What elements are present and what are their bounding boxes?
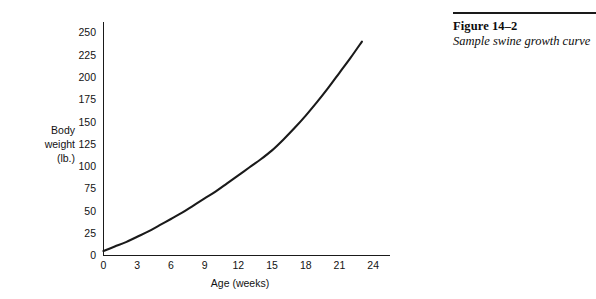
x-tick-label: 15 — [266, 259, 278, 271]
growth-curve-line — [104, 42, 362, 251]
y-tick-label: 75 — [84, 182, 96, 194]
growth-curve-chart: 0255075100125150175200225250 03691215182… — [0, 0, 440, 299]
x-tick-label: 3 — [134, 259, 140, 271]
x-tick-label: 21 — [334, 259, 346, 271]
y-tick-label: 50 — [84, 205, 96, 217]
caption-rule — [453, 12, 596, 14]
y-axis-title: Body weight (lb.) — [44, 124, 76, 164]
y-tick-label: 125 — [78, 138, 96, 150]
y-tick-label: 225 — [78, 49, 96, 61]
figure-region: 0255075100125150175200225250 03691215182… — [0, 0, 440, 299]
chart-axes — [103, 22, 390, 256]
figure-caption: Figure 14–2 Sample swine growth curve — [453, 12, 596, 49]
y-tick-label: 150 — [78, 116, 96, 128]
y-tick-label: 250 — [78, 26, 96, 38]
y-axis-title-line-3: (lb.) — [57, 152, 75, 164]
x-tick-label: 18 — [300, 259, 312, 271]
x-axis-tick-labels: 03691215182124 — [101, 259, 380, 271]
x-tick-label: 0 — [101, 259, 107, 271]
caption-number: Figure 14–2 — [453, 19, 596, 34]
y-tick-label: 100 — [78, 160, 96, 172]
x-axis-title: Age (weeks) — [211, 277, 269, 289]
y-axis-title-line-1: Body — [51, 124, 76, 136]
caption-text: Sample swine growth curve — [453, 34, 596, 49]
x-tick-label: 24 — [367, 259, 379, 271]
y-axis-title-line-2: weight — [44, 138, 75, 150]
y-tick-label: 175 — [78, 93, 96, 105]
y-tick-label: 200 — [78, 71, 96, 83]
y-tick-label: 0 — [90, 249, 96, 261]
x-tick-label: 12 — [232, 259, 244, 271]
x-tick-label: 6 — [168, 259, 174, 271]
y-tick-label: 25 — [84, 227, 96, 239]
y-axis-tick-labels: 0255075100125150175200225250 — [78, 26, 96, 261]
x-tick-label: 9 — [202, 259, 208, 271]
